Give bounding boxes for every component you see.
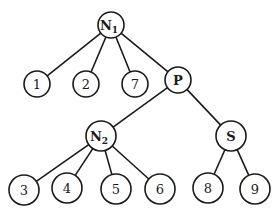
node-5: 5	[101, 174, 131, 204]
tree-edges	[36, 33, 249, 181]
edge-N1-2	[91, 37, 106, 72]
node-8: 8	[193, 173, 223, 203]
node-P: P	[165, 67, 191, 93]
node-S: S	[216, 121, 246, 151]
node-label: 8	[204, 181, 212, 196]
node-label: 5	[112, 182, 120, 197]
edge-S-9	[237, 150, 249, 176]
node-label: 9	[251, 182, 259, 197]
edge-P-S	[187, 89, 221, 125]
node-label: 6	[156, 182, 164, 197]
node-2: 2	[73, 71, 99, 97]
node-N2: N2	[86, 121, 116, 151]
node-label: S	[226, 129, 235, 144]
tree-diagram: N1127PN2S345689	[0, 0, 279, 214]
node-1: 1	[24, 71, 50, 97]
node-3: 3	[9, 175, 39, 205]
node-6: 6	[145, 174, 175, 204]
node-7: 7	[122, 71, 148, 97]
node-label: 1	[33, 77, 41, 92]
node-label: 7	[131, 77, 139, 92]
node-label: 2	[82, 77, 90, 92]
node-label: P	[173, 73, 183, 88]
node-label: 4	[63, 181, 71, 196]
edge-S-8	[214, 150, 225, 175]
node-N1: N1	[98, 12, 124, 38]
node-9: 9	[240, 174, 270, 204]
edge-N2-5	[105, 150, 112, 174]
node-label: 3	[20, 183, 28, 198]
node-4: 4	[52, 173, 82, 203]
edge-N1-7	[116, 37, 130, 72]
